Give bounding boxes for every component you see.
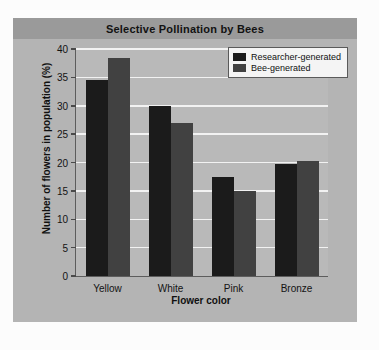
chart-title-bar: Selective Pollination by Bees	[13, 18, 357, 39]
bars-layer: YellowWhitePinkBronze	[76, 49, 328, 276]
legend-label: Bee-generated	[251, 63, 311, 73]
y-axis-tick-label: 5	[62, 242, 68, 253]
legend-item: Bee-generated	[233, 63, 341, 73]
bar	[86, 80, 108, 276]
bar	[234, 191, 256, 276]
bar	[171, 123, 193, 276]
legend-item: Researcher-generated	[233, 52, 341, 62]
bar-group: Bronze	[265, 49, 328, 276]
legend-label: Researcher-generated	[251, 52, 341, 62]
bar-group: Yellow	[76, 49, 139, 276]
bar	[212, 177, 234, 276]
plot-wrapper: Number of flowers in population (%) 0510…	[13, 39, 357, 322]
chart-panel: Selective Pollination by Bees Number of …	[13, 18, 357, 322]
chart-legend: Researcher-generatedBee-generated	[228, 47, 348, 78]
page-root: Selective Pollination by Bees Number of …	[0, 0, 379, 350]
x-axis-tick-label: Bronze	[281, 283, 313, 294]
x-axis-title: Flower color	[75, 295, 327, 306]
y-axis-tick-label: 0	[62, 271, 68, 282]
legend-swatch	[233, 64, 246, 72]
y-axis-tick-label: 35	[57, 72, 68, 83]
y-axis-title: Number of flowers in population (%)	[41, 54, 52, 244]
bar	[108, 58, 130, 276]
y-axis-tick-label: 20	[57, 157, 68, 168]
x-axis-tick-label: White	[158, 283, 184, 294]
y-axis-tick-label: 40	[57, 44, 68, 55]
bar-group: Pink	[202, 49, 265, 276]
bar-group: White	[139, 49, 202, 276]
y-axis-tick-label: 15	[57, 185, 68, 196]
y-axis-tick-label: 25	[57, 129, 68, 140]
y-axis-tick-label: 30	[57, 100, 68, 111]
y-axis-tick-label: 10	[57, 214, 68, 225]
legend-swatch	[233, 53, 246, 61]
x-axis-tick-label: Pink	[224, 283, 243, 294]
bar	[297, 161, 319, 276]
x-axis-tick-label: Yellow	[93, 283, 122, 294]
bar	[275, 164, 297, 276]
plot-area: 0510152025303540 YellowWhitePinkBronze	[75, 49, 328, 277]
chart-title: Selective Pollination by Bees	[106, 23, 264, 35]
bar	[149, 106, 171, 276]
